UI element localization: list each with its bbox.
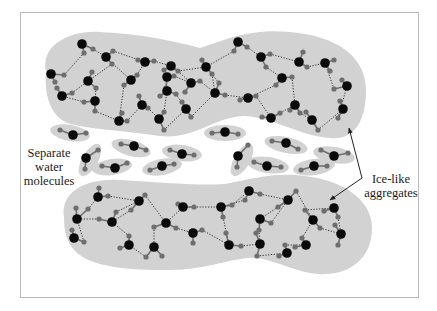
oxygen-atom — [294, 57, 304, 67]
hydrogen-atom — [167, 147, 172, 152]
hydrogen-atom — [331, 57, 336, 62]
hydrogen-atom — [335, 242, 340, 247]
hydrogen-atom — [95, 147, 100, 152]
oxygen-atom — [342, 81, 352, 91]
hydrogen-atom — [331, 86, 336, 91]
ice-like-aggregates-label: Ice-like aggregates — [360, 172, 422, 200]
hydrogen-atom — [298, 167, 303, 172]
hydrogen-atom — [318, 147, 323, 152]
hydrogen-atom — [235, 131, 240, 136]
hydrogen-atom — [257, 191, 262, 196]
hydrogen-atom — [209, 130, 214, 135]
hydrogen-atom — [179, 99, 184, 104]
hydrogen-atom — [244, 44, 249, 49]
hydrogen-atom — [324, 163, 329, 168]
oxygen-atom — [255, 214, 265, 224]
separate-water-molecules-label: Separate water molecules — [20, 146, 78, 188]
oxygen-atom — [301, 240, 311, 250]
hydrogen-atom — [90, 46, 95, 51]
hydrogen-atom — [269, 138, 274, 143]
hydrogen-atom — [263, 64, 268, 69]
hydrogen-atom — [119, 110, 124, 115]
oxygen-atom — [177, 149, 187, 159]
hydrogen-atom — [81, 50, 86, 55]
hydrogen-atom — [83, 130, 88, 135]
oxygen-atom — [188, 228, 198, 238]
oxygen-atom — [154, 114, 164, 124]
oxygen-atom — [320, 58, 330, 68]
oxygen-atom — [186, 78, 196, 88]
hydrogen-atom — [151, 224, 156, 229]
hydrogen-atom — [278, 164, 283, 169]
hydrogen-atom — [209, 71, 214, 76]
hydrogen-atom — [151, 58, 156, 63]
label-line: aggregates — [360, 186, 422, 200]
hydrogen-atom — [245, 142, 250, 147]
hydrogen-atom — [268, 220, 273, 225]
hydrogen-atom — [229, 202, 234, 207]
oxygen-atom — [262, 161, 272, 171]
hydrogen-atom — [300, 49, 305, 54]
oxygen-atom — [266, 113, 276, 123]
oxygen-atom — [126, 75, 136, 85]
hydrogen-atom — [161, 109, 166, 114]
hydrogen-atom — [267, 51, 272, 56]
hydrogen-atom — [335, 115, 340, 120]
oxygen-atom — [290, 100, 300, 110]
oxygen-atom — [181, 104, 191, 114]
hydrogen-atom — [173, 225, 178, 230]
hydrogen-atom — [143, 147, 148, 152]
oxygen-atom — [220, 127, 230, 137]
oxygen-atom — [83, 76, 93, 86]
oxygen-atom — [329, 151, 339, 161]
hydrogen-atom — [73, 205, 78, 210]
hydrogen-atom — [345, 150, 350, 155]
oxygen-atom — [69, 233, 79, 243]
oxygen-atom — [210, 88, 220, 98]
oxygen-atom — [72, 214, 82, 224]
hydrogen-atom — [223, 230, 228, 235]
oxygen-atom — [244, 186, 254, 196]
hydrogen-atom — [109, 61, 114, 66]
hydrogen-atom — [191, 152, 196, 157]
hydrogen-atom — [315, 127, 320, 132]
hydrogen-atom — [317, 225, 322, 230]
hydrogen-atom — [238, 243, 243, 248]
hydrogen-atom — [159, 253, 164, 258]
hydrogen-atom — [143, 254, 148, 259]
hydrogen-atom — [277, 110, 282, 115]
hydrogen-atom — [171, 161, 176, 166]
oxygen-atom — [134, 196, 144, 206]
hydrogen-atom — [321, 208, 326, 213]
oxygen-atom — [166, 61, 176, 71]
hydrogen-atom — [92, 108, 97, 113]
hydrogen-atom — [121, 82, 126, 87]
hydrogen-atom — [69, 90, 74, 95]
hydrogen-atom — [197, 78, 202, 83]
oxygen-atom — [114, 116, 124, 126]
oxygen-atom — [338, 104, 348, 114]
hydrogen-atom — [61, 72, 66, 77]
oxygen-atom — [162, 72, 172, 82]
hydrogen-atom — [242, 197, 247, 202]
hydrogen-atom — [69, 227, 74, 232]
hydrogen-atom — [113, 209, 118, 214]
label-line: water — [20, 160, 78, 174]
hydrogen-atom — [335, 214, 340, 219]
oxygen-atom — [307, 115, 317, 125]
oxygen-atom — [162, 86, 172, 96]
hydrogen-atom — [82, 166, 87, 171]
hydrogen-atom — [57, 127, 62, 132]
oxygen-atom — [149, 242, 159, 252]
hydrogen-atom — [161, 67, 166, 72]
oxygen-atom — [243, 93, 253, 103]
hydrogen-atom — [135, 57, 140, 62]
hydrogen-atom — [188, 114, 193, 119]
oxygen-atom — [77, 39, 87, 49]
hydrogen-atom — [110, 48, 115, 53]
oxygen-atom — [57, 91, 67, 101]
hydrogen-atom — [282, 242, 287, 247]
oxygen-atom — [309, 161, 319, 171]
oxygen-atom — [336, 229, 346, 239]
hydrogen-atom — [124, 118, 129, 123]
